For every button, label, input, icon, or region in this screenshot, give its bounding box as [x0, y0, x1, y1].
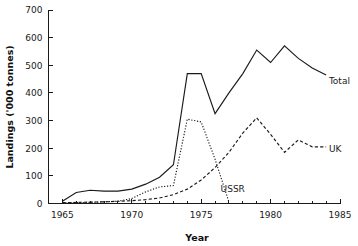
landings-line-chart: 0100200300400500600700 Landings ('000 to… [0, 0, 358, 246]
y-axis-title: Landings ('000 tonnes) [4, 45, 15, 168]
x-tick-label: 1970 [120, 210, 143, 220]
x-tick-label: 1985 [329, 210, 352, 220]
y-tick-label: 300 [25, 116, 42, 126]
x-tick-label: 1965 [51, 210, 74, 220]
y-tick-label: 0 [37, 199, 43, 209]
x-tick-label: 1980 [259, 210, 282, 220]
y-tick-label: 500 [25, 61, 42, 71]
series-label-total: Total [328, 76, 350, 86]
y-tick-label: 700 [25, 5, 42, 15]
y-tick-label: 400 [25, 88, 42, 98]
series-label-uk: UK [329, 144, 343, 154]
y-tick-label: 100 [25, 171, 42, 181]
series-label-ussr: USSR [221, 184, 245, 194]
y-tick-label: 600 [25, 33, 42, 43]
x-axis-title: Year [184, 232, 209, 243]
chart-container: 0100200300400500600700 Landings ('000 to… [0, 0, 358, 246]
x-tick-label: 1975 [190, 210, 213, 220]
y-tick-label: 200 [25, 144, 42, 154]
